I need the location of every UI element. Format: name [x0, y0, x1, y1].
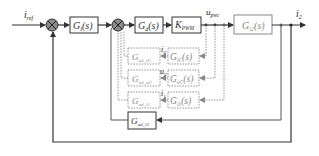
block-gd: Gd(s) [135, 17, 163, 33]
svg-text:Gi1(s): Gi1(s) [170, 96, 191, 107]
block-gi: Gi(s) [70, 17, 98, 33]
line-gadi2-sum2 [111, 27, 128, 120]
ic-label: iC [161, 45, 167, 55]
block-gi1: Gi1(s) [168, 92, 199, 108]
svg-text:Gd(s): Gd(s) [138, 20, 159, 32]
input-label: iref [24, 9, 35, 21]
uc-label: uC [160, 67, 168, 77]
line-upwc-gi1 [200, 25, 224, 100]
block-gic: GiC(s) [168, 48, 199, 64]
block-gad-uc: Gad_uC [128, 70, 160, 86]
block-gi2: Gi2(s) [234, 15, 272, 34]
block-gad-ic: Gad_iC [128, 48, 160, 64]
block-guc: GuC(s) [168, 70, 199, 86]
block-diagram: iref Gi(s) Gd(s) KPWM upwc Gi2(s) [0, 0, 319, 156]
block-gad-i2: Gad_i2 [128, 112, 156, 129]
svg-text:Gi(s): Gi(s) [73, 20, 93, 32]
line-gadic-sum2 [124, 31, 128, 56]
summing-junction-2 [112, 19, 124, 31]
line-upwc-guc [200, 25, 215, 78]
line-gaduc-sum2 [121, 31, 128, 78]
output-label: i2 [296, 8, 302, 20]
summing-junction-1 [46, 19, 58, 31]
block-kpwm: KPWM [172, 17, 201, 33]
line-gadi1-sum2 [118, 31, 128, 100]
u-pwc-label: upwc [206, 7, 220, 18]
block-gad-i1: Gad_i1 [128, 92, 160, 108]
i1-label: i1 [161, 89, 166, 99]
svg-text:Gi2(s): Gi2(s) [242, 20, 265, 32]
